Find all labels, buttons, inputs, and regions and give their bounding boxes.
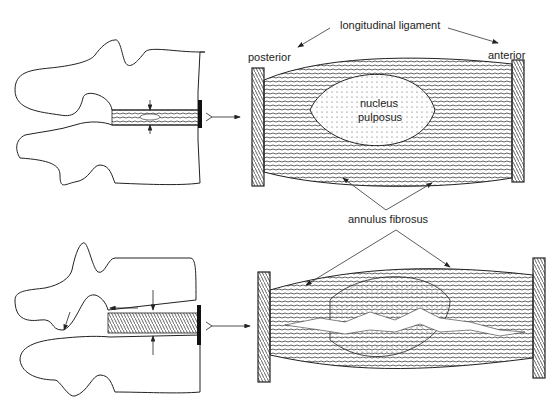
label-longitudinal-ligament: longitudinal ligament (340, 20, 440, 31)
degenerated-disc-enlarged (258, 258, 545, 382)
degenerated-disc-small (108, 313, 198, 333)
label-pulposus: pulposus (358, 112, 402, 123)
bracket-icon (206, 113, 212, 121)
label-posterior: posterior (248, 52, 291, 63)
label-nucleus: nucleus (360, 98, 398, 109)
bracket-icon (206, 322, 212, 330)
label-annulus-fibrosus: annulus fibrosus (348, 214, 428, 225)
label-anterior: anterior (488, 50, 525, 61)
